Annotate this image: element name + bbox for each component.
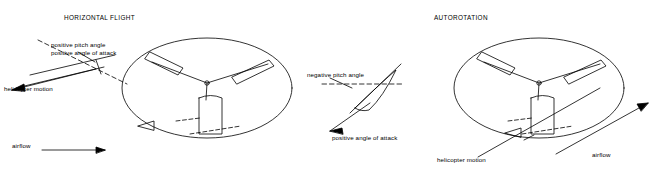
label-positive-angle-of-attack-right: positive angle of attack bbox=[332, 134, 397, 141]
label-helicopter-motion-right: helicopter motion bbox=[437, 156, 486, 163]
angle-vertex-left bbox=[96, 60, 101, 74]
rotor-blade-right-3 bbox=[531, 96, 554, 135]
label-positive-angle-of-attack-left: positive angle of attack bbox=[51, 49, 116, 56]
panel-title-autorotation: AUTOROTATION bbox=[434, 14, 488, 21]
left-airflow-group bbox=[42, 147, 105, 153]
blade-chord-dash-right-2 bbox=[508, 118, 532, 121]
helicopter-motion-line-right bbox=[478, 88, 600, 157]
airflow-arrowhead-right bbox=[637, 103, 648, 111]
label-positive-pitch-angle-left: positive pitch angle bbox=[51, 41, 106, 48]
label-airflow-right: airflow bbox=[592, 151, 611, 158]
figure-canvas: HORIZONTAL FLIGHT positive pitch angle p… bbox=[0, 0, 669, 174]
blade-arm-right-lower bbox=[538, 83, 539, 100]
panel-title-horizontal-flight: HORIZONTAL FLIGHT bbox=[64, 14, 135, 21]
blade-chord-dash-right bbox=[522, 126, 573, 134]
label-airflow-left: airflow bbox=[12, 142, 31, 149]
rotor-blade-left-2 bbox=[232, 60, 274, 84]
airflow-arrowhead-left bbox=[96, 147, 105, 153]
aoa-arrow-right bbox=[330, 103, 370, 131]
left-rotor-disc-group bbox=[122, 38, 292, 138]
blade-chord-dash-left bbox=[190, 126, 241, 134]
helicopter-rotor-diagram bbox=[0, 0, 669, 174]
label-helicopter-motion-left: helicopter motion bbox=[4, 85, 53, 92]
blade-chord-dash-left-2 bbox=[176, 118, 200, 121]
right-rotor-disc-group bbox=[454, 38, 624, 138]
airflow-arrow-right bbox=[556, 103, 648, 154]
rotor-blade-left-3 bbox=[199, 96, 222, 135]
blade-arm-left-lower bbox=[206, 83, 207, 100]
label-negative-pitch-angle-right: negative pitch angle bbox=[307, 71, 364, 78]
leader-pitch-right bbox=[330, 78, 352, 88]
rotor-blade-right-2 bbox=[564, 60, 606, 84]
